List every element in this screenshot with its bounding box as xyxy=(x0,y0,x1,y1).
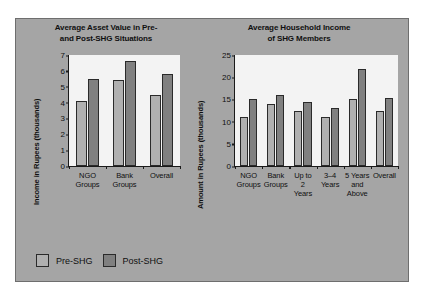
x-axis-label-line: Overall xyxy=(371,171,398,180)
chart-title-line-2: of SHG Members xyxy=(192,34,406,45)
x-axis-label-line: Groups xyxy=(106,180,143,189)
x-axis-label: BankGroups xyxy=(106,171,143,189)
bar-post xyxy=(385,98,393,166)
x-axis-label: 3–4Years xyxy=(317,171,344,189)
plot-area-household-income: NGOGroupsBankGroupsUp to2Years3–4Years5 … xyxy=(234,55,398,167)
y-axis-tick: 25 xyxy=(222,51,235,60)
x-axis-tick xyxy=(289,166,290,169)
bar-group xyxy=(262,55,289,166)
bar-post xyxy=(125,61,136,166)
x-axis-label: NGOGroups xyxy=(235,171,262,189)
x-axis-label-line: Bank xyxy=(106,171,143,180)
bar-group-container-household-income: NGOGroupsBankGroupsUp to2Years3–4Years5 … xyxy=(235,55,398,166)
x-axis-label-line: Years xyxy=(317,180,344,189)
y-axis-tick: 5 xyxy=(227,139,235,148)
x-axis-tick xyxy=(69,166,70,169)
x-axis-label-line: Overall xyxy=(143,171,180,180)
x-axis-label: Overall xyxy=(143,171,180,180)
bar-group xyxy=(317,55,344,166)
y-axis-tick: 7 xyxy=(61,51,69,60)
x-axis-tick xyxy=(235,166,236,169)
legend-label: Pre-SHG xyxy=(56,256,93,266)
x-axis-label: Up to2Years xyxy=(289,171,316,198)
chart-legend: Pre-SHGPost-SHG xyxy=(36,254,163,267)
y-axis-tick: 5 xyxy=(61,82,69,91)
x-axis-label-line: and xyxy=(344,180,371,189)
x-axis-label: 5 YearsandAbove xyxy=(344,171,371,198)
chart-asset-value: Average Asset Value in Pre- and Post-SHG… xyxy=(20,19,192,235)
bar-pre xyxy=(76,101,87,166)
x-axis-label: BankGroups xyxy=(262,171,289,189)
y-axis-tick: 10 xyxy=(222,117,235,126)
y-axis-tick: 0 xyxy=(227,162,235,171)
bar-pre xyxy=(150,95,161,166)
legend-swatch-icon xyxy=(103,254,116,267)
x-axis-tick xyxy=(317,166,318,169)
x-axis-label: Overall xyxy=(371,171,398,180)
bar-post xyxy=(303,102,311,166)
chart-title-line-2: and Post-SHG Situations xyxy=(20,34,192,45)
x-axis-tick xyxy=(180,166,181,169)
bar-pre xyxy=(294,111,302,166)
x-axis-label-line: Groups xyxy=(69,180,106,189)
bar-post xyxy=(249,99,257,166)
bar-post xyxy=(331,108,339,166)
chart-title-line-1: Average Asset Value in Pre- xyxy=(20,23,192,34)
bar-pre xyxy=(240,117,248,166)
x-axis-label-line: Groups xyxy=(262,180,289,189)
plot-area-asset-value: NGOGroupsBankGroupsOverall 01234567 xyxy=(68,55,180,167)
bar-post xyxy=(88,79,99,166)
y-axis-tick: 3 xyxy=(61,114,69,123)
bar-pre xyxy=(349,99,357,166)
legend-item-pre[interactable]: Pre-SHG xyxy=(36,254,93,267)
bar-group-container-asset-value: NGOGroupsBankGroupsOverall xyxy=(69,55,180,166)
chart-title-line-1: Average Household Income xyxy=(192,23,406,34)
x-axis-label-line: Bank xyxy=(262,171,289,180)
x-axis-label-line: Above xyxy=(344,189,371,198)
bar-group xyxy=(235,55,262,166)
x-axis-tick xyxy=(262,166,263,169)
legend-swatch-icon xyxy=(36,254,49,267)
legend-label: Post-SHG xyxy=(123,256,164,266)
figure-panel: Average Asset Value in Pre- and Post-SHG… xyxy=(15,18,409,282)
bar-group xyxy=(289,55,316,166)
y-axis-label-household-income: Amount in Rupees (thousands) xyxy=(196,101,205,209)
x-axis-label-line: Groups xyxy=(235,180,262,189)
y-axis-tick: 4 xyxy=(61,98,69,107)
chart-title-asset-value: Average Asset Value in Pre- and Post-SHG… xyxy=(20,23,192,44)
charts-row: Average Asset Value in Pre- and Post-SHG… xyxy=(16,19,408,235)
y-axis-tick: 0 xyxy=(61,162,69,171)
x-axis-tick xyxy=(106,166,107,169)
bar-post xyxy=(358,69,366,166)
bar-group xyxy=(344,55,371,166)
bar-post xyxy=(276,95,284,166)
bar-group xyxy=(69,55,106,166)
y-axis-tick: 15 xyxy=(222,95,235,104)
x-axis-label-line: NGO xyxy=(235,171,262,180)
x-axis-label-line: 2 xyxy=(289,180,316,189)
x-axis-tick xyxy=(371,166,372,169)
chart-household-income: Average Household Income of SHG Members … xyxy=(192,19,406,235)
y-axis-label-asset-value: Income in Rupees (thousands) xyxy=(32,99,41,205)
x-axis-label-line: Years xyxy=(289,189,316,198)
x-axis-label: NGOGroups xyxy=(69,171,106,189)
bar-group xyxy=(106,55,143,166)
bar-post xyxy=(162,74,173,166)
x-axis-label-line: NGO xyxy=(69,171,106,180)
x-axis-label-line: 5 Years xyxy=(344,171,371,180)
x-axis-label-line: 3–4 xyxy=(317,171,344,180)
y-axis-tick: 20 xyxy=(222,73,235,82)
bar-pre xyxy=(376,111,384,166)
y-axis-tick: 2 xyxy=(61,130,69,139)
x-axis-tick xyxy=(398,166,399,169)
legend-item-post[interactable]: Post-SHG xyxy=(103,254,164,267)
bar-pre xyxy=(113,80,124,166)
bar-group xyxy=(371,55,398,166)
x-axis-tick xyxy=(143,166,144,169)
chart-title-household-income: Average Household Income of SHG Members xyxy=(192,23,406,44)
bar-pre xyxy=(321,117,329,166)
x-axis-tick xyxy=(344,166,345,169)
x-axis-label-line: Up to xyxy=(289,171,316,180)
bar-pre xyxy=(267,104,275,166)
y-axis-tick: 6 xyxy=(61,66,69,75)
